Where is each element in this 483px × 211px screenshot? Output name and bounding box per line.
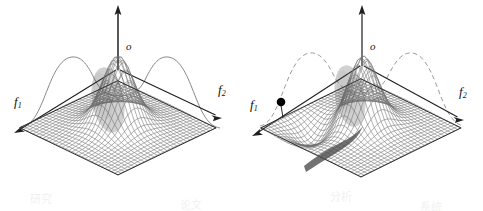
left-surface-plot: o f1 f2 [0,0,241,211]
z-axis-label-right: o [370,41,376,52]
f1-axis-label-right: f1 [250,98,258,113]
z-axis-label-left: o [126,41,132,52]
marker-stem-right [281,105,283,118]
f1-axis-label-left: f1 [14,95,22,110]
right-surface-plot: o f1 f2 [242,0,483,211]
left-plot-canvas [0,0,241,211]
figure-container: o f1 f2 [0,0,483,211]
f2-axis-right [364,66,458,117]
marker-dot-right[interactable] [277,98,286,107]
f2-axis-arrowhead-right [454,117,465,123]
f2-axis-label-right: f2 [459,85,467,100]
peak-shadow-left [87,65,129,135]
right-plot-canvas [242,0,483,211]
f2-axis-label-left: f2 [218,83,226,98]
f2-axis-arrowhead-left [211,115,222,121]
